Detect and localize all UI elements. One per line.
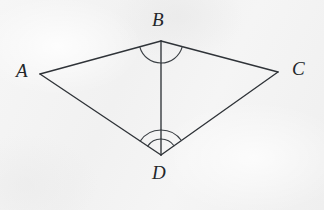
segment-da bbox=[40, 74, 161, 155]
segment-bc bbox=[161, 41, 278, 72]
angle-cdb-arc-1 bbox=[161, 139, 174, 146]
angle-cbd-arc-1 bbox=[161, 47, 182, 63]
vertex-label-c: C bbox=[292, 59, 305, 78]
vertex-label-d: D bbox=[152, 163, 166, 182]
vertex-label-b: B bbox=[152, 10, 164, 29]
segment-cd bbox=[161, 72, 278, 155]
segment-ab bbox=[40, 41, 161, 74]
angle-abd-arc-1 bbox=[140, 47, 161, 63]
angle-adb-arc-1 bbox=[148, 139, 161, 146]
vertex-label-a: A bbox=[16, 61, 28, 80]
polygon-edges bbox=[40, 41, 278, 155]
geometry-figure: A B C D bbox=[0, 0, 324, 210]
